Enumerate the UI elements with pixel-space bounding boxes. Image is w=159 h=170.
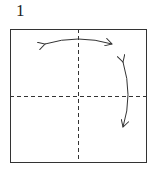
origami-diagram <box>0 0 159 170</box>
